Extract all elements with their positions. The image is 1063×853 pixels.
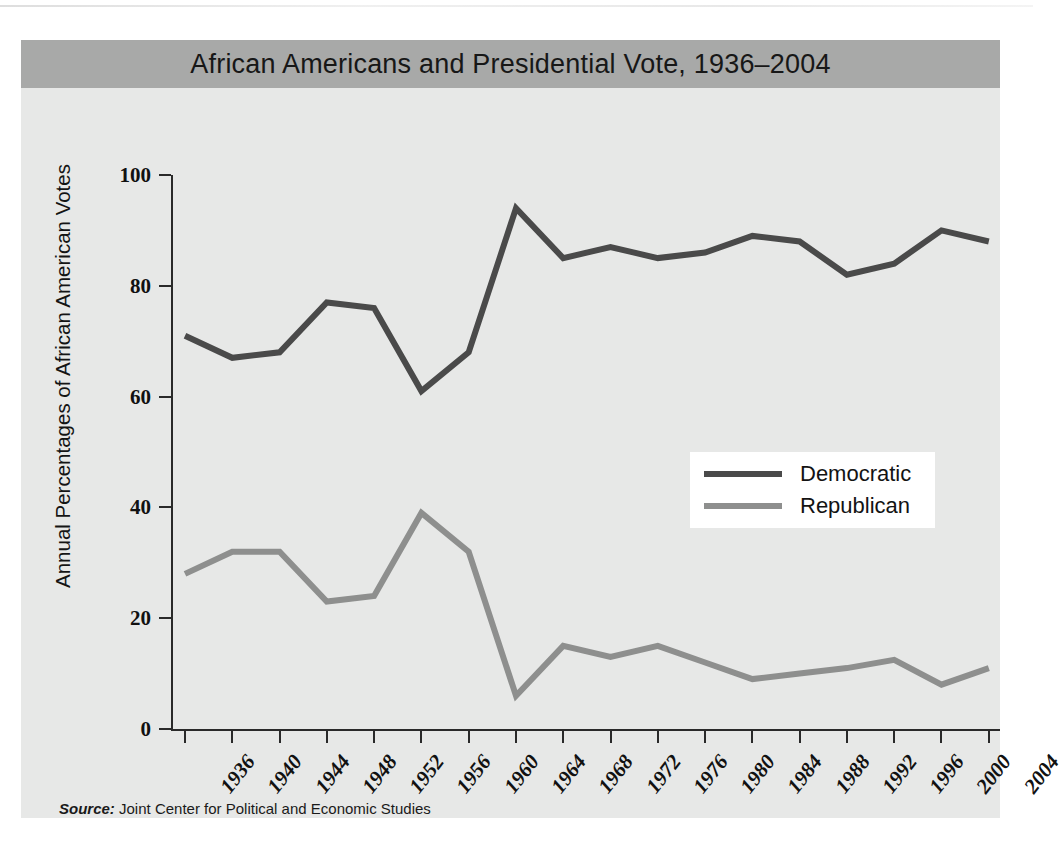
legend-label-democratic: Democratic [800,461,911,487]
legend-swatch-democratic [704,471,782,477]
x-tick-label: 2004 [1019,750,1063,798]
legend-swatch-republican [704,503,782,509]
series-line-democratic [185,208,989,391]
scan-artifact-line [0,5,1033,7]
legend-item-republican: Republican [704,490,935,522]
legend-label-republican: Republican [800,493,910,519]
chart-legend: Democratic Republican [690,452,935,528]
series-line-republican [185,513,989,696]
source-note: Source: Joint Center for Political and E… [59,800,431,817]
plot-region: Annual Percentages of African American V… [21,88,1000,818]
figure-title-bar: African Americans and Presidential Vote,… [21,40,1000,88]
figure-panel: African Americans and Presidential Vote,… [21,40,1000,818]
source-prefix: Source: [59,800,115,817]
figure-title: African Americans and Presidential Vote,… [190,49,830,80]
source-text: Joint Center for Political and Economic … [115,800,431,817]
legend-item-democratic: Democratic [704,458,935,490]
